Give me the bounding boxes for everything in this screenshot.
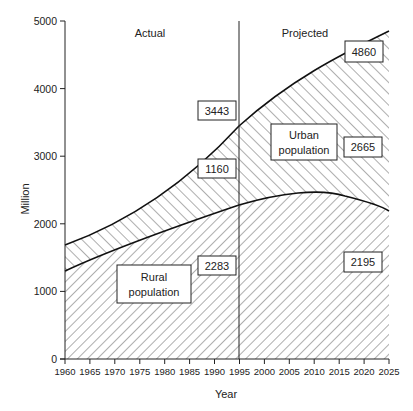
population-chart: 0 1000 2000 3000 4000 5000 1960 1965 197…	[0, 0, 413, 411]
urban-population-label: Urban population	[271, 124, 337, 160]
svg-text:1960: 1960	[54, 366, 75, 377]
svg-text:3443: 3443	[205, 105, 229, 117]
svg-text:2025: 2025	[378, 366, 399, 377]
svg-text:4860: 4860	[352, 46, 376, 58]
svg-text:2015: 2015	[329, 366, 350, 377]
label-3443: 3443	[198, 101, 236, 120]
svg-text:1970: 1970	[104, 366, 125, 377]
y-tick-label: 4000	[34, 83, 58, 95]
label-4860: 4860	[345, 41, 383, 62]
svg-text:1965: 1965	[79, 366, 100, 377]
y-tick-label: 5000	[34, 15, 58, 27]
actual-label: Actual	[135, 27, 166, 39]
svg-text:2665: 2665	[351, 141, 375, 153]
y-ticks: 0 1000 2000 3000 4000 5000	[34, 15, 65, 365]
label-1160: 1160	[198, 159, 236, 178]
svg-text:1160: 1160	[205, 163, 229, 175]
label-2665: 2665	[344, 137, 382, 157]
y-tick-label: 2000	[34, 218, 58, 230]
svg-text:2010: 2010	[304, 366, 325, 377]
svg-text:population: population	[279, 144, 330, 156]
svg-text:2020: 2020	[354, 366, 375, 377]
projected-label: Projected	[282, 27, 328, 39]
y-tick-label: 1000	[34, 285, 58, 297]
label-2195: 2195	[344, 252, 382, 272]
y-tick-label: 0	[51, 353, 57, 365]
svg-text:1980: 1980	[154, 366, 175, 377]
rural-area	[65, 192, 389, 359]
svg-text:1985: 1985	[179, 366, 200, 377]
label-2283: 2283	[198, 256, 236, 275]
svg-text:Rural: Rural	[141, 271, 167, 283]
svg-text:2005: 2005	[279, 366, 300, 377]
svg-text:1995: 1995	[229, 366, 250, 377]
svg-text:2195: 2195	[351, 256, 375, 268]
svg-text:Urban: Urban	[289, 129, 319, 141]
svg-text:2000: 2000	[254, 366, 275, 377]
rural-population-label: Rural population	[117, 265, 191, 303]
svg-text:1990: 1990	[204, 366, 225, 377]
x-ticks	[65, 359, 389, 364]
svg-text:2283: 2283	[205, 260, 229, 272]
y-axis-title: Million	[19, 183, 31, 214]
svg-text:1975: 1975	[129, 366, 150, 377]
y-tick-label: 3000	[34, 150, 58, 162]
svg-text:population: population	[129, 286, 180, 298]
x-tick-labels: 1960 1965 1970 1975 1980 1985 1990 1995 …	[54, 366, 399, 377]
x-axis-title: Year	[215, 388, 238, 400]
